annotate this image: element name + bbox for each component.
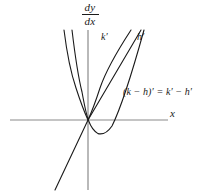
x-axis-label: x [170, 108, 175, 119]
curve-label-k-prime: k′ [101, 32, 108, 42]
curve-label-h-prime: h′ [137, 32, 144, 42]
y-axis-label-numerator: dy [70, 2, 110, 14]
curve-h-prime [72, 30, 144, 134]
difference-equation-annotation: (k − h)′ = k′ − h′ [123, 87, 192, 97]
y-axis-label-denominator: dx [70, 15, 110, 27]
y-axis-label: dy dx [70, 2, 110, 27]
plot-canvas [0, 0, 212, 196]
derivative-graph-figure: dy dx x k′ h′ (k − h)′ = k′ − h′ [0, 0, 212, 196]
